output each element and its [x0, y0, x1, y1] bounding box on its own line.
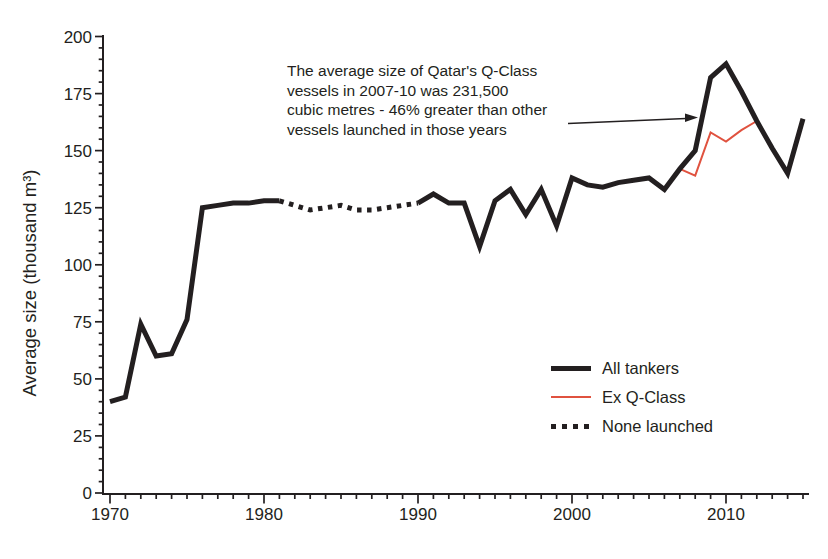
y-tick-label: 125: [64, 199, 92, 218]
series-all-tankers: [110, 201, 279, 402]
y-tick-label: 75: [73, 313, 92, 332]
chart-figure: 0255075100125150175200197019801990200020…: [0, 0, 828, 559]
x-tick-label: 1980: [245, 505, 283, 524]
series-none-launched: [279, 201, 418, 210]
y-axis-title: Average size (thousand m³): [19, 170, 40, 397]
legend-item-ex-q-class: Ex Q-Class: [551, 387, 713, 407]
y-tick-label: 200: [64, 28, 92, 47]
y-tick-label: 175: [64, 85, 92, 104]
legend-swatch-none-launched: [551, 424, 591, 429]
x-tick-label: 2000: [553, 505, 591, 524]
legend-swatch-ex-q-class: [551, 396, 591, 398]
y-tick-label: 150: [64, 142, 92, 161]
y-tick-label: 0: [83, 484, 92, 503]
legend: All tankers Ex Q-Class None launched: [551, 358, 713, 445]
annotation-arrow-line: [568, 119, 686, 124]
y-tick-label: 50: [73, 370, 92, 389]
legend-item-none-launched: None launched: [551, 416, 713, 436]
legend-label-ex-q-class: Ex Q-Class: [602, 388, 685, 407]
annotation-arrowhead-icon: [685, 114, 698, 123]
x-tick-label: 1990: [399, 505, 437, 524]
legend-label-all-tankers: All tankers: [602, 359, 679, 378]
legend-label-none-launched: None launched: [602, 417, 713, 436]
y-tick-label: 25: [73, 427, 92, 446]
x-tick-label: 2010: [707, 505, 745, 524]
legend-item-all-tankers: All tankers: [551, 358, 713, 378]
y-tick-label: 100: [64, 256, 92, 275]
legend-swatch-all-tankers: [551, 366, 591, 371]
annotation-callout: The average size of Qatar's Q-Class vess…: [287, 61, 547, 139]
series-ex-q-class: [680, 121, 757, 176]
x-tick-label: 1970: [91, 505, 129, 524]
